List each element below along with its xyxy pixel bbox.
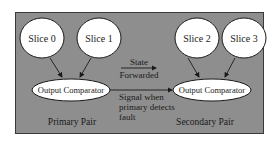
slice-1-node: Slice 1 bbox=[77, 18, 121, 58]
state-forwarded-label-2: Forwarded bbox=[120, 70, 159, 80]
slice-3-label: Slice 3 bbox=[230, 33, 258, 44]
fault-signal-label-1: Signal when bbox=[119, 92, 164, 102]
fault-signal-label-3: fault bbox=[119, 112, 136, 122]
slice-0-node: Slice 0 bbox=[20, 18, 64, 58]
slice-3-node: Slice 3 bbox=[222, 18, 266, 58]
state-forwarded-label-1: State bbox=[130, 57, 148, 67]
secondary-comparator-node: Output Comparator bbox=[173, 79, 251, 101]
arrow-slice2-to-comparator bbox=[188, 58, 199, 77]
slice-0-label: Slice 0 bbox=[28, 33, 56, 44]
arrow-slice3-to-comparator bbox=[225, 58, 235, 77]
fault-signal-label-2: primary detects bbox=[119, 102, 175, 112]
secondary-pair-label: Secondary Pair bbox=[176, 117, 235, 127]
arrow-slice1-to-comparator bbox=[80, 58, 91, 77]
slice-1-label: Slice 1 bbox=[85, 33, 113, 44]
primary-comparator-node: Output Comparator bbox=[32, 79, 110, 101]
slice-2-node: Slice 2 bbox=[175, 18, 219, 58]
slice-2-label: Slice 2 bbox=[183, 33, 211, 44]
secondary-comparator-label: Output Comparator bbox=[179, 85, 246, 95]
primary-pair-label: Primary Pair bbox=[48, 117, 97, 127]
primary-comparator-label: Output Comparator bbox=[38, 85, 105, 95]
arrow-slice0-to-comparator bbox=[50, 58, 62, 77]
diagram-canvas: Slice 0 Slice 1 Output Comparator Primar… bbox=[0, 0, 279, 143]
